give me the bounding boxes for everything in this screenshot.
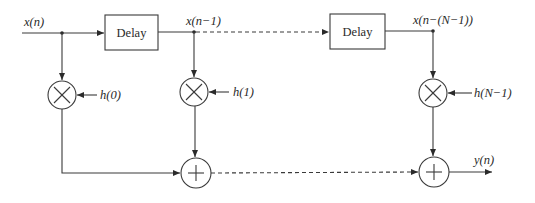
delay-block-2: Delay [330, 14, 385, 49]
multiplier-0 [48, 81, 76, 109]
fir-filter-diagram: x(n) Delay x(n−1) Delay x(n−(N−1)) h(0) … [0, 0, 535, 203]
delay-block-1-label: Delay [117, 26, 148, 40]
delay-block-1: Delay [105, 15, 158, 50]
adder-1 [181, 158, 211, 188]
coef-last-label: h(N−1) [474, 86, 512, 100]
adder-2 [419, 157, 449, 187]
delayed-last-label: x(n−(N−1)) [412, 13, 473, 27]
input-label: x(n) [23, 15, 44, 29]
delayed-1-label: x(n−1) [185, 14, 221, 28]
multiplier-1 [180, 78, 208, 106]
delay-block-2-label: Delay [343, 25, 374, 39]
multiplier-last [419, 79, 447, 107]
product-0-wire [62, 109, 180, 173]
coef-1-label: h(1) [233, 85, 254, 99]
coef-0-label: h(0) [100, 88, 121, 102]
output-label: y(n) [472, 153, 494, 167]
dashed-sum-chain [211, 172, 418, 173]
